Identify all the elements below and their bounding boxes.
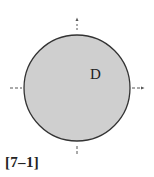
right-axis-tick [132, 87, 145, 90]
arrow-up-icon [76, 18, 79, 22]
arrow-right-icon [141, 87, 145, 90]
disc-diagram: D [0, 0, 154, 177]
region-label: D [90, 66, 101, 82]
figure-caption: [7–1] [5, 154, 39, 171]
top-axis-tick [76, 18, 79, 31]
disc-region [24, 35, 130, 141]
